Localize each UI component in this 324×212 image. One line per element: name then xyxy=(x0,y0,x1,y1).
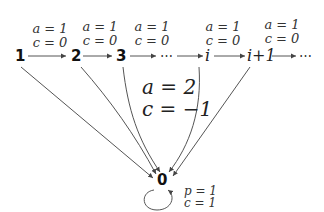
label-a: a = 2 xyxy=(142,76,212,98)
label-c: c = −1 xyxy=(142,98,212,120)
ellipsis-end: ⋯ xyxy=(299,48,312,64)
node-2: 2 xyxy=(71,48,81,64)
label-a: a = 1 xyxy=(203,20,243,34)
edge-label-2-3: a = 1 c = 0 xyxy=(80,20,120,48)
edge-label-i-i1: a = 1 c = 0 xyxy=(203,20,243,48)
label-c: c = 0 xyxy=(262,32,302,46)
edge-label-i1-dots: a = 1 c = 0 xyxy=(262,18,302,46)
node-1: 1 xyxy=(15,48,25,64)
edge-label-1-2: a = 1 c = 0 xyxy=(30,22,70,50)
label-c: c = 0 xyxy=(132,34,172,48)
edge-0-0-self-loop xyxy=(144,190,172,210)
node-3: 3 xyxy=(116,48,126,64)
label-a: a = 1 xyxy=(80,20,120,34)
node-i-plus-1: i+1 xyxy=(247,48,276,64)
edge-1-0 xyxy=(21,67,153,178)
label-c: c = 0 xyxy=(80,34,120,48)
node-0: 0 xyxy=(157,172,167,188)
markov-chain-diagram: a = 1 c = 0 a = 1 c = 0 a = 1 c = 0 a = … xyxy=(0,0,324,212)
edge-label-to-zero: a = 2 c = −1 xyxy=(142,76,212,120)
label-a: a = 1 xyxy=(30,22,70,36)
edge-label-self-loop: p = 1 c = 1 xyxy=(184,185,217,209)
label-c: c = 1 xyxy=(184,197,217,209)
label-c: c = 0 xyxy=(30,36,70,50)
ellipsis-mid: ⋯ xyxy=(160,48,173,64)
edge-label-3-dots: a = 1 c = 0 xyxy=(132,20,172,48)
label-a: a = 1 xyxy=(262,18,302,32)
label-a: a = 1 xyxy=(132,20,172,34)
node-i: i xyxy=(205,48,210,64)
